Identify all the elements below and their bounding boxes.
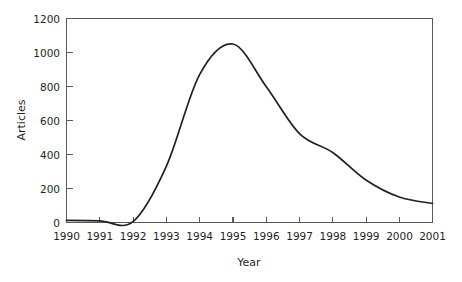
y-tick-label-800: 800 bbox=[40, 81, 60, 93]
x-tick-label-1992: 1992 bbox=[120, 230, 147, 242]
x-axis-title: Year bbox=[236, 256, 261, 269]
articles-per-year-line-chart: 0 200 400 600 800 1000 1200 1990 199 bbox=[0, 0, 462, 282]
x-tick-label-1991: 1991 bbox=[86, 230, 113, 242]
x-tick-label-2000: 2000 bbox=[386, 230, 413, 242]
x-tick-label-1994: 1994 bbox=[186, 230, 213, 242]
y-tick-label-1000: 1000 bbox=[33, 47, 60, 59]
x-tick-label-1998: 1998 bbox=[320, 230, 347, 242]
y-axis-title: Articles bbox=[15, 99, 28, 140]
y-tick-label-1200: 1200 bbox=[33, 13, 60, 25]
y-tick-label-600: 600 bbox=[40, 115, 60, 127]
y-tick-label-0: 0 bbox=[53, 217, 60, 229]
x-tick-label-1996: 1996 bbox=[253, 230, 280, 242]
x-tick-label-2001: 2001 bbox=[419, 230, 446, 242]
chart-canvas: 0 200 400 600 800 1000 1200 1990 199 bbox=[0, 0, 462, 282]
x-tick-label-1999: 1999 bbox=[353, 230, 380, 242]
x-tick-label-1993: 1993 bbox=[153, 230, 180, 242]
y-tick-label-200: 200 bbox=[40, 183, 60, 195]
x-tick-label-1997: 1997 bbox=[286, 230, 313, 242]
x-tick-label-1995: 1995 bbox=[220, 230, 247, 242]
x-tick-label-1990: 1990 bbox=[53, 230, 80, 242]
y-tick-label-400: 400 bbox=[40, 149, 60, 161]
